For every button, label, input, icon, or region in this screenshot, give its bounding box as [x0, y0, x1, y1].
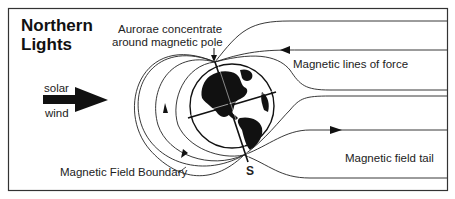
- field-tail-label: Magnetic field tail: [345, 152, 434, 164]
- title-line-1: Northern: [21, 16, 93, 35]
- wind-label: wind: [44, 107, 69, 119]
- northern-lights-diagram: Northern Lights Aurorae concentrate arou…: [0, 0, 455, 199]
- aurorae-label-line-1: Aurorae concentrate: [118, 23, 222, 35]
- field-boundary-label: Magnetic Field Boundary: [60, 166, 187, 178]
- solar-label: solar: [44, 82, 69, 94]
- south-pole-label: S: [246, 164, 254, 178]
- title-line-2: Lights: [21, 35, 72, 54]
- aurorae-label-line-2: around magnetic pole: [112, 36, 223, 48]
- lines-of-force-label: Magnetic lines of force: [293, 58, 408, 70]
